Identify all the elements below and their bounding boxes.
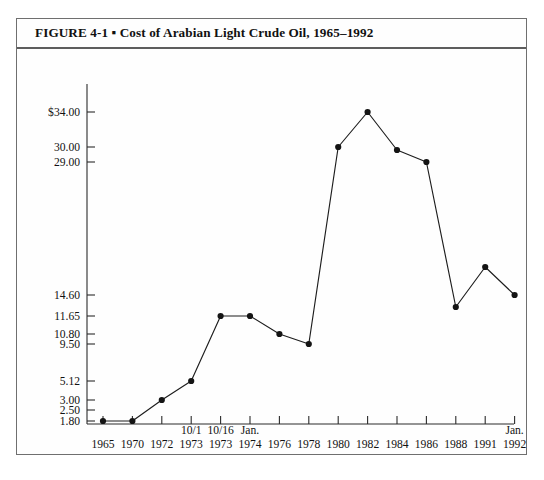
data-point-marker (482, 264, 488, 270)
data-point-marker (365, 109, 371, 115)
x-axis-tick-label: 1980 (327, 438, 350, 451)
x-axis-labels: 1965197019721973197319741976197819801982… (91, 438, 526, 451)
data-point-marker (423, 159, 429, 165)
data-point-marker (276, 331, 282, 337)
y-axis-labels: $34.0030.0029.0014.6011.6510.809.505.123… (48, 106, 80, 428)
data-point-marker (512, 292, 518, 298)
x-axis-tick-label: 1986 (415, 438, 438, 451)
x-axis-tick-label: 1976 (268, 438, 291, 451)
data-point-marker (129, 418, 135, 424)
x-axis-tick-label: 1973 (209, 438, 232, 451)
series-line-path (103, 112, 515, 421)
x-axis-upper-label: 10/16 (207, 424, 234, 437)
y-axis-tick-label: 14.60 (54, 289, 80, 302)
x-axis-tick-label: 1984 (385, 438, 408, 451)
data-point-marker (306, 341, 312, 347)
y-axis-tick-label: 30.00 (54, 141, 80, 154)
data-point-marker (159, 397, 165, 403)
data-series (103, 112, 515, 421)
x-axis-tick-label: 1992 (503, 438, 526, 451)
x-axis-tick-label: 1982 (356, 438, 379, 451)
line-chart: $34.0030.0029.0014.6011.6510.809.505.123… (17, 49, 528, 454)
chart-plot-area: $34.0030.0029.0014.6011.6510.809.505.123… (17, 49, 528, 454)
data-point-marker (335, 144, 341, 150)
data-point-markers (100, 109, 518, 424)
x-axis-tick-label: 1973 (180, 438, 203, 451)
y-axis-tick-label: $34.00 (48, 106, 80, 119)
x-axis-upper-label: Jan. (505, 424, 523, 437)
figure-header: FIGURE 4-1 ▪ Cost of Arabian Light Crude… (17, 19, 526, 49)
x-axis-tick-label: 1988 (444, 438, 467, 451)
y-axis-tick-label: 29.00 (54, 156, 80, 169)
data-point-marker (394, 147, 400, 153)
x-axis-tick-label: 1974 (238, 438, 261, 451)
y-axis-tick-label: 5.12 (60, 375, 80, 388)
x-axis-tick-label: 1965 (91, 438, 114, 451)
data-point-marker (188, 378, 194, 384)
x-axis-tick-label: 1991 (474, 438, 497, 451)
data-point-marker (218, 313, 224, 319)
x-axis-tick-label: 1970 (121, 438, 144, 451)
data-point-marker (100, 418, 106, 424)
y-axis-ticks (87, 112, 95, 421)
x-axis-tick-label: 1972 (150, 438, 173, 451)
y-axis-tick-label: 11.65 (54, 310, 80, 323)
x-axis-upper-label: Jan. (241, 424, 259, 437)
x-axis-upper-label: 10/1 (181, 424, 202, 437)
x-axis-tick-label: 1978 (297, 438, 320, 451)
data-point-marker (247, 313, 253, 319)
data-point-marker (453, 304, 459, 310)
x-axis-upper-labels: 10/110/16Jan.Jan. (181, 424, 524, 437)
y-axis-tick-label: 9.50 (60, 338, 80, 351)
figure-title: FIGURE 4-1 ▪ Cost of Arabian Light Crude… (35, 25, 373, 41)
x-axis-ticks (103, 416, 515, 424)
y-axis-tick-label: 1.80 (60, 415, 80, 428)
chart-axes (87, 84, 514, 424)
figure-frame: FIGURE 4-1 ▪ Cost of Arabian Light Crude… (16, 18, 527, 455)
